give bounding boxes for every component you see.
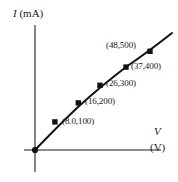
y-axis-title: I (mA) bbox=[13, 8, 43, 19]
data-point-label: (8.0,100) bbox=[62, 117, 94, 126]
iv-curve-figure: I (mA) V (V) (8.0,100) (16,200) (26,300)… bbox=[0, 0, 178, 182]
data-point-label: (16,200) bbox=[85, 97, 115, 106]
origin-point-marker bbox=[32, 147, 38, 153]
x-axis-title: V bbox=[154, 126, 161, 137]
data-point-marker bbox=[123, 64, 128, 69]
data-point-label: (37,400) bbox=[131, 62, 161, 71]
data-point-label: (48,500) bbox=[106, 41, 136, 50]
data-point-label: (26,300) bbox=[106, 79, 136, 88]
data-point-marker bbox=[52, 119, 57, 124]
x-axis-symbol: V bbox=[154, 125, 161, 137]
x-axis-unit-label: (V) bbox=[150, 142, 165, 153]
x-axis-unit: (V) bbox=[150, 141, 165, 153]
data-point-marker bbox=[147, 49, 152, 54]
data-point-marker bbox=[97, 83, 102, 88]
plot-canvas bbox=[0, 0, 178, 182]
data-point-marker bbox=[76, 100, 81, 105]
y-axis-unit: (mA) bbox=[19, 7, 43, 19]
